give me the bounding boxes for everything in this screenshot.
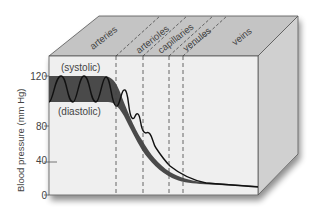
y-tick-80: 80 [36, 121, 48, 132]
y-tick-40: 40 [36, 155, 48, 166]
blood-pressure-diagram: arteries arterioles capillaries venules … [0, 0, 312, 217]
y-tick-120: 120 [30, 71, 47, 82]
y-tick-0: 0 [41, 190, 47, 201]
y-axis-label: Blood pressure (mm Hg) [15, 89, 26, 192]
systolic-label: (systolic) [61, 62, 100, 73]
diastolic-label: (diastolic) [58, 106, 101, 117]
